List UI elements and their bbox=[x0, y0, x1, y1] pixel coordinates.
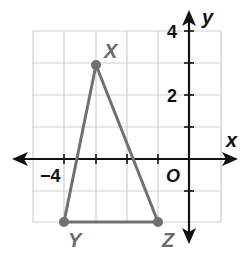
triangle-xyz bbox=[59, 60, 163, 227]
point-y-label: Y bbox=[68, 229, 83, 251]
point-x-label: X bbox=[103, 40, 119, 62]
x-tick-label-neg4: −4 bbox=[40, 166, 61, 186]
origin-label: O bbox=[166, 166, 180, 186]
y-tick-label-2: 2 bbox=[167, 86, 177, 106]
coordinate-plane: X Y Z x y O −4 4 2 bbox=[0, 0, 240, 257]
point-z-label: Z bbox=[161, 229, 175, 251]
x-axis-label: x bbox=[225, 129, 238, 151]
y-axis bbox=[182, 10, 196, 244]
point-x bbox=[91, 60, 101, 70]
point-y bbox=[59, 217, 69, 227]
y-axis-label: y bbox=[201, 6, 214, 28]
point-z bbox=[153, 217, 163, 227]
x-axis bbox=[12, 152, 238, 166]
y-tick-label-4: 4 bbox=[167, 22, 177, 42]
